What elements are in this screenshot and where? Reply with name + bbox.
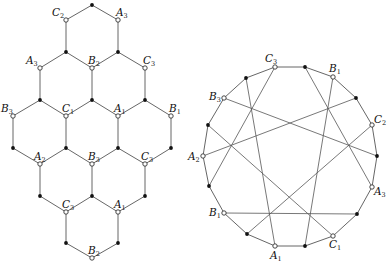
- vertex-label: A3: [373, 185, 386, 199]
- vertex-open-icon: [116, 114, 120, 118]
- vertex-label: B2: [87, 54, 100, 68]
- lattice-edge: [118, 52, 145, 68]
- hexagonal-lattice-edges: [13, 5, 171, 258]
- diagram-canvas: C2A3A3B2C3B3C1A1B1A2B3C3C3A1B2 C3B1C2A3C…: [0, 0, 388, 262]
- vertex-filled-icon: [207, 184, 211, 188]
- vertex-filled-icon: [64, 146, 68, 150]
- circular-graph-vertices: C3B1C2A3C1A1B1A2B3: [187, 52, 386, 262]
- vertex-filled-icon: [354, 96, 358, 100]
- vertex-filled-icon: [143, 194, 147, 198]
- vertex-open-icon: [90, 256, 94, 260]
- vertex-open-icon: [90, 162, 94, 166]
- vertex-filled-icon: [38, 194, 42, 198]
- vertex-label: A1: [113, 198, 126, 212]
- vertex-open-icon: [116, 18, 120, 22]
- chord-edge: [305, 77, 333, 246]
- vertex-filled-icon: [303, 65, 307, 69]
- vertex-filled-icon: [206, 123, 210, 127]
- lattice-edge: [13, 100, 40, 116]
- vertex-open-icon: [201, 154, 205, 158]
- vertex-filled-icon: [64, 50, 68, 54]
- vertex-open-icon: [331, 75, 335, 79]
- vertex-label: C2: [374, 113, 386, 127]
- chord-edge: [203, 98, 356, 156]
- polygon-outline: [203, 67, 377, 246]
- vertex-filled-icon: [90, 3, 94, 7]
- vertex-label: C1: [62, 102, 74, 116]
- vertex-open-icon: [222, 96, 226, 100]
- vertex-open-icon: [90, 66, 94, 70]
- lattice-edge: [145, 100, 171, 116]
- lattice-edge: [92, 5, 118, 20]
- vertex-label: B3: [87, 150, 100, 164]
- vertex-filled-icon: [303, 244, 307, 248]
- chord-edge: [224, 98, 377, 156]
- vertex-open-icon: [38, 66, 42, 70]
- vertex-filled-icon: [90, 194, 94, 198]
- vertex-open-icon: [222, 211, 226, 215]
- chord-edge: [224, 213, 357, 214]
- vertex-label: C2: [52, 6, 64, 20]
- vertex-label: B1: [168, 102, 181, 116]
- vertex-label: C3: [62, 198, 74, 212]
- vertex-label: A1: [113, 102, 126, 116]
- vertex-label: C3: [141, 150, 153, 164]
- vertex-label: A2: [187, 150, 200, 164]
- vertex-filled-icon: [375, 154, 379, 158]
- vertex-open-icon: [64, 210, 68, 214]
- vertex-filled-icon: [11, 146, 15, 150]
- vertex-label: C1: [329, 238, 341, 252]
- vertex-label: B3: [208, 90, 221, 104]
- chord-edge: [209, 67, 275, 186]
- vertex-filled-icon: [244, 76, 248, 80]
- vertex-open-icon: [143, 162, 147, 166]
- vertex-open-icon: [64, 18, 68, 22]
- vertex-filled-icon: [245, 232, 249, 236]
- vertex-label: A3: [115, 6, 128, 20]
- hexagonal-lattice-vertices: C2A3A3B2C3B3C1A1B1A2B3C3C3A1B2: [0, 3, 181, 260]
- vertex-filled-icon: [38, 98, 42, 102]
- vertex-open-icon: [116, 210, 120, 214]
- vertex-label: A3: [25, 54, 38, 68]
- vertex-open-icon: [273, 244, 277, 248]
- vertex-filled-icon: [90, 98, 94, 102]
- vertex-label: B2: [87, 244, 100, 258]
- vertex-label: B3: [0, 102, 13, 116]
- vertex-label: A2: [33, 150, 46, 164]
- vertex-filled-icon: [355, 212, 359, 216]
- vertex-filled-icon: [169, 146, 173, 150]
- chord-edge: [305, 67, 372, 187]
- vertex-label: C3: [265, 52, 277, 66]
- vertex-filled-icon: [116, 146, 120, 150]
- lattice-edge: [66, 5, 92, 20]
- vertex-label: B1: [208, 206, 221, 220]
- vertex-label: C3: [143, 54, 155, 68]
- vertex-label: B1: [328, 62, 341, 76]
- vertex-filled-icon: [143, 98, 147, 102]
- circular-graph-perimeter: [203, 67, 377, 246]
- vertex-open-icon: [169, 114, 173, 118]
- lattice-edge: [40, 52, 66, 68]
- chord-edge: [246, 78, 275, 246]
- vertex-label: A1: [269, 249, 282, 262]
- vertex-open-icon: [143, 66, 147, 70]
- vertex-filled-icon: [116, 241, 120, 245]
- vertex-open-icon: [64, 114, 68, 118]
- vertex-filled-icon: [64, 241, 68, 245]
- vertex-filled-icon: [116, 50, 120, 54]
